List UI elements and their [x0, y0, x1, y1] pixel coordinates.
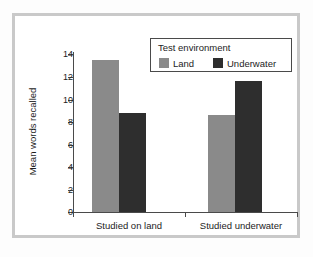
- y-tick-label-10: 10: [51, 96, 73, 105]
- legend-swatch-underwater-icon: [213, 58, 223, 68]
- y-axis-title: Mean words recalled: [27, 67, 38, 197]
- x-axis-label-studied-on-land: Studied on land: [73, 220, 185, 231]
- y-tick-label-0: 0: [51, 208, 73, 217]
- y-tick-label-4: 4: [51, 163, 73, 172]
- y-tick-label-8: 8: [51, 118, 73, 127]
- y-tick-label-wrap-6: 6: [40, 141, 73, 150]
- x-axis-label-studied-underwater: Studied underwater: [185, 220, 297, 231]
- y-tick-label-6: 6: [51, 141, 73, 150]
- bar-studied-on-land-tested-land[interactable]: [92, 60, 119, 212]
- legend-label-land: Land: [173, 58, 194, 69]
- legend: Test environment Land Underwater: [150, 38, 292, 72]
- legend-swatch-land-icon: [159, 58, 169, 68]
- x-tick-mark-middle: [185, 212, 186, 217]
- y-axis-line: [73, 52, 74, 213]
- x-tick-mark-left: [73, 212, 74, 217]
- bar-chart-plot-area: Mean words recalled 0 2 4 6 8 10 12: [0, 0, 313, 257]
- bar-studied-on-land-tested-underwater[interactable]: [119, 113, 146, 212]
- y-tick-label-14: 14: [51, 50, 73, 59]
- y-tick-label-wrap-0: 0: [40, 208, 73, 217]
- y-tick-label-wrap-12: 12: [40, 73, 73, 82]
- y-tick-label-wrap-2: 2: [40, 186, 73, 195]
- bar-studied-underwater-tested-land[interactable]: [208, 115, 235, 212]
- y-tick-label-2: 2: [51, 186, 73, 195]
- legend-title: Test environment: [158, 42, 230, 53]
- legend-entry-underwater[interactable]: Underwater: [213, 57, 276, 69]
- y-tick-label-wrap-14: 14: [40, 50, 73, 59]
- figure-canvas: Mean words recalled 0 2 4 6 8 10 12: [0, 0, 313, 257]
- bar-studied-underwater-tested-underwater[interactable]: [235, 81, 262, 212]
- y-tick-label-12: 12: [51, 73, 73, 82]
- legend-entry-land[interactable]: Land: [159, 57, 194, 69]
- y-tick-label-wrap-10: 10: [40, 96, 73, 105]
- y-tick-label-wrap-4: 4: [40, 163, 73, 172]
- y-tick-label-wrap-8: 8: [40, 118, 73, 127]
- x-tick-mark-right: [297, 212, 298, 217]
- legend-label-underwater: Underwater: [227, 58, 276, 69]
